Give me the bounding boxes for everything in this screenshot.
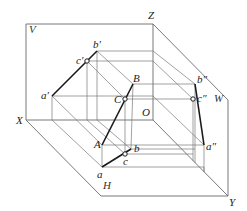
- label-b: b: [134, 142, 140, 154]
- point-c-prime: [85, 59, 89, 63]
- projection-lines: [52, 51, 204, 172]
- label-C: C: [114, 93, 122, 105]
- label-c-dprime: c″: [197, 92, 207, 104]
- label-a-prime: a′: [41, 89, 50, 101]
- plane-frames: [26, 24, 228, 196]
- label-plane-h: H: [102, 179, 112, 191]
- label-B: B: [133, 72, 140, 84]
- label-origin-o: O: [142, 106, 150, 118]
- point-C: [123, 97, 127, 101]
- labels: V W H Z X Y O b′ c′ a′ B C A b c a b″ c″…: [15, 9, 237, 208]
- point-c-dprime: [191, 97, 195, 101]
- y-axis: [153, 120, 228, 196]
- three-plane-projection-diagram: V W H Z X Y O b′ c′ a′ B C A b c a b″ c″…: [0, 0, 247, 211]
- label-plane-v: V: [29, 23, 37, 35]
- point-c-markers: [85, 59, 195, 156]
- label-c-prime: c′: [76, 54, 84, 66]
- label-axis-z: Z: [148, 9, 155, 21]
- label-A: A: [93, 138, 101, 150]
- segment-a-prime-b-prime: [52, 51, 97, 96]
- label-plane-w: W: [214, 92, 224, 104]
- label-a-dprime: a″: [206, 140, 217, 152]
- label-c: c: [123, 155, 128, 167]
- label-b-dprime: b″: [197, 73, 208, 85]
- label-b-prime: b′: [93, 38, 102, 50]
- segment-ab: [52, 51, 204, 167]
- label-a: a: [97, 168, 103, 180]
- label-axis-y: Y: [229, 196, 237, 208]
- label-axis-x: X: [15, 114, 24, 126]
- w-plane-frame: [153, 24, 228, 196]
